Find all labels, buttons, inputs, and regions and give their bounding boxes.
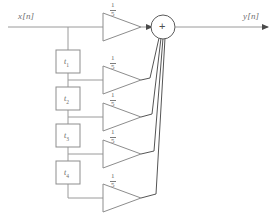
gain-denominator-1: 5 bbox=[110, 64, 116, 71]
gain-fraction-1: 1 5 bbox=[110, 55, 116, 72]
summer-plus-sign: + bbox=[159, 21, 165, 32]
gain-fraction-4: 1 5 bbox=[110, 173, 116, 190]
gain-label-0: 1 5 bbox=[110, 2, 116, 19]
gain-denominator-2: 5 bbox=[110, 101, 116, 108]
gain-numerator-4: 1 bbox=[110, 173, 116, 180]
delay-label-4: t4 bbox=[64, 168, 69, 179]
gain-fraction-2: 1 5 bbox=[110, 92, 116, 109]
gain-triangle-2[interactable] bbox=[103, 103, 141, 131]
gain-denominator-4: 5 bbox=[110, 182, 116, 189]
gain-numerator-3: 1 bbox=[110, 129, 116, 136]
diagram-vector-layer bbox=[0, 0, 277, 224]
delay-sub-1: 1 bbox=[66, 62, 69, 68]
delay-sub-2: 2 bbox=[66, 99, 69, 105]
delay-label-2: t2 bbox=[64, 94, 69, 105]
gain-numerator-2: 1 bbox=[110, 92, 116, 99]
delay-label-3: t3 bbox=[64, 131, 69, 142]
gain-triangle-4[interactable] bbox=[103, 184, 141, 212]
output-label: y[n] bbox=[243, 11, 259, 21]
gain-fraction-3: 1 5 bbox=[110, 129, 116, 146]
delay-sub-3: 3 bbox=[66, 136, 69, 142]
gain-triangle-3[interactable] bbox=[103, 140, 141, 168]
gain-denominator-0: 5 bbox=[110, 11, 116, 18]
gain-triangle-0[interactable] bbox=[103, 13, 141, 41]
gain-label-3: 1 5 bbox=[110, 129, 116, 146]
block-diagram-canvas: x[n] y[n] + t1 t2 t3 t4 1 5 1 5 1 5 bbox=[0, 0, 277, 224]
gain-triangle-1[interactable] bbox=[103, 66, 141, 94]
delay-sub-4: 4 bbox=[66, 173, 69, 179]
delay-label-1: t1 bbox=[64, 57, 69, 68]
gain-label-1: 1 5 bbox=[110, 55, 116, 72]
gain-label-4: 1 5 bbox=[110, 173, 116, 190]
gain-numerator-1: 1 bbox=[110, 55, 116, 62]
gain-label-2: 1 5 bbox=[110, 92, 116, 109]
input-label: x[n] bbox=[18, 11, 34, 21]
gain-denominator-3: 5 bbox=[110, 138, 116, 145]
gain-fraction-0: 1 5 bbox=[110, 2, 116, 19]
gain-numerator-0: 1 bbox=[110, 2, 116, 9]
output-signal-path bbox=[175, 24, 269, 30]
